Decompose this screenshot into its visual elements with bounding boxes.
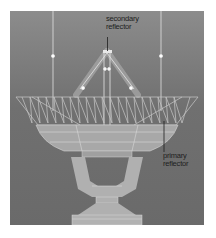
mount-yoke bbox=[71, 157, 143, 197]
secondary-support bbox=[76, 51, 138, 95]
secondary-reflector-label: secondary reflector bbox=[106, 15, 139, 31]
dish-truss bbox=[16, 97, 198, 125]
label-line: reflector bbox=[163, 160, 188, 168]
dish-bowl bbox=[36, 125, 178, 151]
pedestal bbox=[78, 203, 136, 215]
reflected-rays bbox=[80, 53, 134, 131]
primary-reflector-label: primary reflector bbox=[163, 152, 188, 168]
telescope-diagram bbox=[10, 11, 204, 225]
label-line: reflector bbox=[106, 23, 139, 31]
